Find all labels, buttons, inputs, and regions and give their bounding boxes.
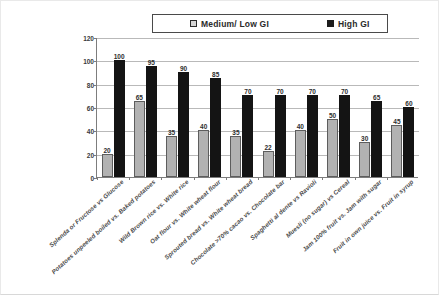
bar-value-label: 40 — [200, 123, 207, 130]
bar-value-label: 35 — [232, 129, 239, 136]
bar-high-gi: 85 — [210, 78, 221, 177]
legend-item-high-gi: High GI — [327, 19, 370, 29]
bar-medium-low-gi: 40 — [198, 130, 209, 177]
bar-value-label: 30 — [361, 135, 368, 142]
bar-value-label: 22 — [264, 144, 271, 151]
bar-value-label: 40 — [297, 123, 304, 130]
bar-value-label: 70 — [309, 88, 316, 95]
bar-value-label: 50 — [329, 112, 336, 119]
y-tick-label: 60 — [87, 105, 94, 112]
bar-group: 3590 — [161, 37, 193, 177]
bar-medium-low-gi: 22 — [263, 151, 274, 177]
y-tick-label: 40 — [87, 128, 94, 135]
bar-group: 20100 — [97, 37, 129, 177]
bar-group: 5070 — [322, 37, 354, 177]
bar-medium-low-gi: 35 — [166, 136, 177, 177]
legend-label-high-gi: High GI — [338, 19, 370, 29]
bar-high-gi: 70 — [307, 95, 318, 177]
bar-value-label: 65 — [136, 94, 143, 101]
bar-high-gi: 100 — [114, 60, 125, 177]
bar-medium-low-gi: 35 — [230, 136, 241, 177]
bar-medium-low-gi: 20 — [102, 154, 113, 177]
x-axis-label: Muesli (no sugar) vs Cereal — [284, 178, 350, 239]
bar-value-label: 100 — [114, 53, 125, 60]
x-axis-label: Spaghetti al dente vs Ravioli — [249, 178, 318, 241]
bar-value-label: 35 — [168, 129, 175, 136]
bar-group: 4085 — [194, 37, 226, 177]
bar-high-gi: 60 — [403, 107, 414, 177]
bar-high-gi: 90 — [178, 72, 189, 177]
x-axis-category-labels: Splenda or Fructose vs GlucosePotatoes u… — [96, 178, 418, 294]
bar-value-label: 70 — [244, 88, 251, 95]
bar-medium-low-gi: 40 — [295, 130, 306, 177]
bar-medium-low-gi: 50 — [327, 119, 338, 177]
legend-label-medium-low-gi: Medium/ Low GI — [201, 19, 269, 29]
bar-groups: 2010065953590408535702270407050703065456… — [97, 37, 419, 177]
bar-value-label: 65 — [373, 94, 380, 101]
glycemic-index-bar-chart: Medium/ Low GI High GI 020406080100120 2… — [0, 0, 439, 295]
bar-group: 4560 — [387, 37, 419, 177]
y-tick-label: 100 — [83, 58, 94, 65]
bar-high-gi: 65 — [371, 101, 382, 177]
legend-swatch-high-gi — [327, 20, 334, 27]
bar-high-gi: 95 — [146, 66, 157, 177]
legend-swatch-medium-low-gi — [190, 20, 197, 27]
bar-value-label: 20 — [103, 147, 110, 154]
bar-high-gi: 70 — [242, 95, 253, 177]
bar-medium-low-gi: 65 — [134, 101, 145, 177]
y-tick-label: 20 — [87, 151, 94, 158]
y-tick-label: 120 — [83, 35, 94, 42]
bar-high-gi: 70 — [275, 95, 286, 177]
bar-group: 3065 — [355, 37, 387, 177]
bar-value-label: 70 — [341, 88, 348, 95]
bar-value-label: 45 — [393, 118, 400, 125]
y-tick-label: 0 — [90, 175, 94, 182]
bar-value-label: 60 — [405, 100, 412, 107]
bar-group: 3570 — [226, 37, 258, 177]
bar-medium-low-gi: 45 — [391, 125, 402, 178]
bar-high-gi: 70 — [339, 95, 350, 177]
bar-group: 4070 — [290, 37, 322, 177]
plot-area: 020406080100120 201006595359040853570227… — [96, 38, 418, 178]
chart-legend: Medium/ Low GI High GI — [152, 14, 388, 33]
legend-item-medium-low-gi: Medium/ Low GI — [190, 19, 269, 29]
bar-value-label: 90 — [180, 65, 187, 72]
bar-medium-low-gi: 30 — [359, 142, 370, 177]
bar-value-label: 70 — [276, 88, 283, 95]
bar-group: 2270 — [258, 37, 290, 177]
bar-value-label: 85 — [212, 71, 219, 78]
y-tick-label: 80 — [87, 81, 94, 88]
bar-group: 6595 — [129, 37, 161, 177]
bar-value-label: 95 — [148, 59, 155, 66]
